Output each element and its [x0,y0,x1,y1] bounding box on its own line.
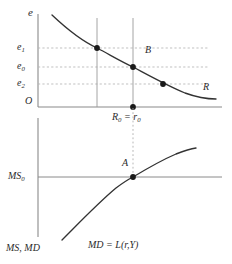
origin-label-o: O [25,96,32,106]
x-marker-label-r0-equals-r0: R0 = r0 [112,112,141,122]
tick-label-e2: e2 [17,78,25,88]
point-on-r-curve-e1 [94,45,100,51]
axis-label-r: R [203,82,209,92]
md-curve-label: MD = L(r,Y) [88,240,138,250]
point-label-a: A [122,158,128,168]
point-label-b: B [145,45,151,55]
md-curve [62,148,196,240]
figure-canvas [0,0,232,264]
point-on-r-curve-e2 [160,81,166,87]
money-market-exchange-rate-figure: e e1 e0 e2 O B R R0 = r0 MS0 A MS, MD MD… [0,0,232,264]
axis-label-e: e [28,7,33,18]
tick-label-e0: e0 [17,61,25,71]
tick-label-e1: e1 [17,42,25,52]
point-b [130,64,136,70]
point-a [130,174,136,180]
r-curve [52,15,216,99]
axis-label-ms-md: MS, MD [6,243,40,253]
ms0-label: MS0 [8,171,25,181]
